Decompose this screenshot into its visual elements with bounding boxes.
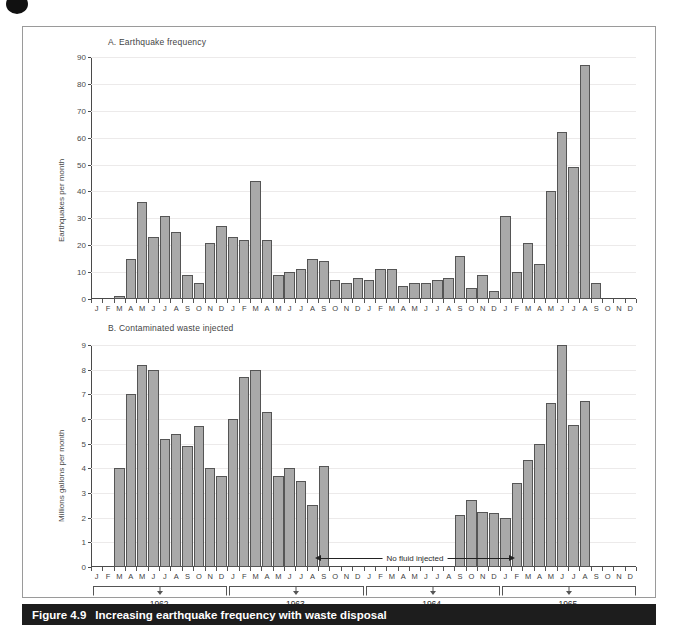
bar <box>341 283 351 299</box>
chart-b-y-axis-label: Millions gallons per month <box>57 430 66 523</box>
brace-arrow-icon <box>566 591 572 595</box>
x-tick-mark <box>216 299 217 303</box>
no-fluid-injected-label: No fluid injected <box>383 554 448 563</box>
x-month-label: J <box>560 572 564 581</box>
x-month-label: N <box>208 304 213 313</box>
x-month-label: A <box>582 572 587 581</box>
bar <box>216 226 226 299</box>
year-brace <box>502 586 636 596</box>
x-tick-mark <box>341 299 342 303</box>
x-month-label: O <box>196 572 202 581</box>
gridline <box>91 138 636 139</box>
x-month-label: N <box>480 304 485 313</box>
y-tick-mark <box>88 111 91 112</box>
x-tick-mark <box>102 567 103 571</box>
bar <box>126 394 136 567</box>
x-month-label: M <box>548 572 554 581</box>
x-tick-mark <box>261 567 262 571</box>
bar <box>546 403 556 567</box>
x-tick-mark <box>420 567 421 571</box>
x-tick-mark <box>409 299 410 303</box>
x-month-label: D <box>355 572 360 581</box>
x-month-label: A <box>174 572 179 581</box>
bar <box>353 278 363 300</box>
x-tick-mark <box>295 567 296 571</box>
bar <box>148 237 158 299</box>
bar <box>330 280 340 299</box>
x-month-label: D <box>355 304 360 313</box>
x-tick-mark <box>534 567 535 571</box>
bar <box>455 256 465 299</box>
bar <box>557 345 567 567</box>
x-tick-mark <box>591 567 592 571</box>
x-month-label: F <box>242 572 247 581</box>
x-tick-mark <box>329 299 330 303</box>
x-tick-mark <box>636 567 637 571</box>
arrow-right-icon <box>509 555 515 561</box>
x-month-label: M <box>139 572 145 581</box>
x-tick-mark <box>182 567 183 571</box>
x-month-label: M <box>275 304 281 313</box>
bar <box>296 269 306 299</box>
y-tick-label: 4 <box>82 464 86 473</box>
y-tick-label: 30 <box>77 214 86 223</box>
x-tick-mark <box>432 299 433 303</box>
x-month-label: A <box>582 304 587 313</box>
x-month-label: S <box>594 304 599 313</box>
bar <box>160 216 170 299</box>
x-tick-mark <box>375 299 376 303</box>
x-tick-mark <box>466 299 467 303</box>
x-tick-mark <box>114 299 115 303</box>
x-month-label: M <box>525 304 531 313</box>
bar <box>239 377 249 567</box>
x-month-label: J <box>367 572 371 581</box>
chart-b-x-ticks <box>91 567 636 571</box>
x-month-label: J <box>163 572 167 581</box>
chart-b-plot-area: 0123456789 <box>91 345 636 567</box>
y-tick-mark <box>88 57 91 58</box>
x-tick-mark <box>159 567 160 571</box>
x-tick-mark <box>591 299 592 303</box>
x-month-label: O <box>468 572 474 581</box>
x-tick-mark <box>148 567 149 571</box>
x-month-label: S <box>321 572 326 581</box>
chart-a-y-axis <box>91 57 92 299</box>
bar <box>296 481 306 567</box>
x-month-label: A <box>310 572 315 581</box>
x-month-label: M <box>253 304 259 313</box>
x-tick-mark <box>375 567 376 571</box>
x-month-label: N <box>208 572 213 581</box>
bar <box>546 191 556 299</box>
x-tick-mark <box>557 299 558 303</box>
x-month-label: F <box>106 304 111 313</box>
gridline <box>91 370 636 371</box>
caption-text: Increasing earthquake frequency with was… <box>86 609 386 621</box>
bar <box>409 283 419 299</box>
x-tick-mark <box>579 299 580 303</box>
x-tick-mark <box>568 567 569 571</box>
bar <box>250 181 260 299</box>
x-month-label: J <box>367 304 371 313</box>
x-tick-mark <box>125 567 126 571</box>
gridline <box>91 394 636 395</box>
bar <box>307 259 317 299</box>
x-month-label: N <box>344 572 349 581</box>
x-tick-mark <box>352 567 353 571</box>
x-month-label: J <box>288 304 292 313</box>
x-tick-mark <box>477 567 478 571</box>
x-month-label: D <box>219 572 224 581</box>
bar <box>432 280 442 299</box>
x-tick-mark <box>125 299 126 303</box>
x-tick-mark <box>488 567 489 571</box>
bar <box>182 275 192 299</box>
x-tick-mark <box>182 299 183 303</box>
x-month-label: O <box>196 304 202 313</box>
bar <box>194 426 204 567</box>
x-month-label: N <box>480 572 485 581</box>
x-tick-mark <box>91 299 92 303</box>
x-tick-mark <box>443 299 444 303</box>
bar <box>205 468 215 567</box>
bar <box>171 434 181 567</box>
brace-arrow-icon <box>293 591 299 595</box>
x-tick-mark <box>227 567 228 571</box>
